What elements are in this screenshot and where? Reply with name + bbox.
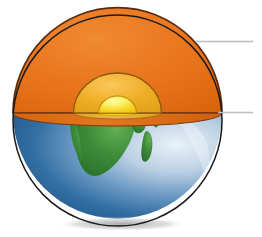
diagram-canvas [0, 0, 262, 237]
globe-shadow [56, 217, 188, 231]
earth-cutaway-illustration [0, 0, 262, 237]
earth-surface [13, 113, 222, 232]
